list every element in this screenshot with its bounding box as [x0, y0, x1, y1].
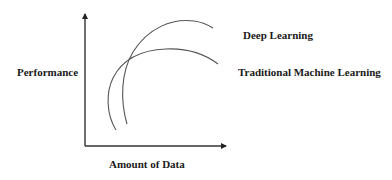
traditional-ml-label: Traditional Machine Learning	[238, 67, 381, 78]
deep-learning-curve	[123, 20, 213, 124]
diagram-canvas	[0, 0, 392, 180]
x-axis-label: Amount of Data	[109, 159, 185, 170]
traditional-ml-curve	[108, 49, 218, 130]
y-axis-label: Performance	[17, 67, 78, 78]
deep-learning-label: Deep Learning	[243, 30, 313, 41]
